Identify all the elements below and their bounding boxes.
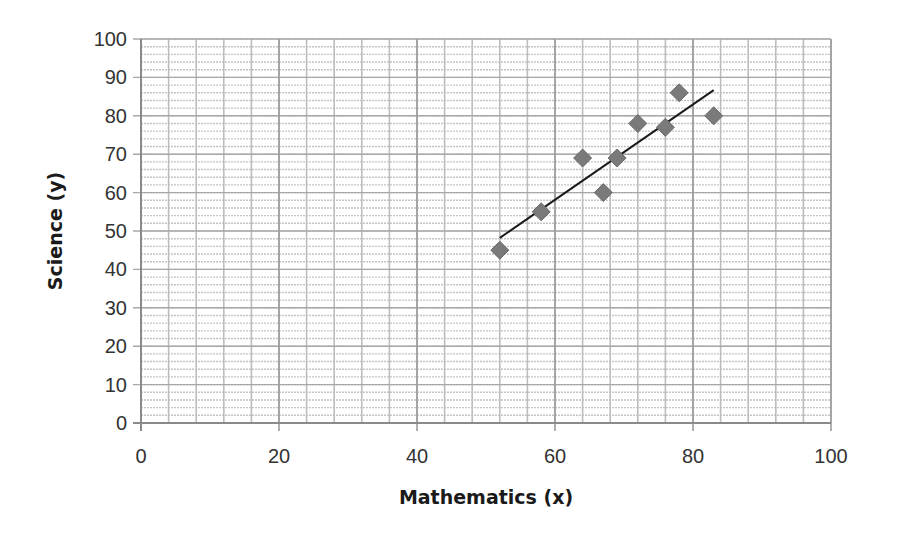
data-points xyxy=(491,84,723,259)
diamond-marker xyxy=(629,114,647,132)
y-tick-label: 80 xyxy=(105,105,127,127)
diamond-marker xyxy=(491,241,509,259)
y-tick-label: 100 xyxy=(94,28,127,50)
x-tick-label: 80 xyxy=(682,445,704,467)
y-tick-label: 90 xyxy=(105,66,127,88)
y-tick-label: 60 xyxy=(105,182,127,204)
diamond-marker xyxy=(670,84,688,102)
y-tick-label: 70 xyxy=(105,143,127,165)
x-tick-label: 60 xyxy=(544,445,566,467)
major-gridlines xyxy=(133,39,831,431)
y-tick-label: 30 xyxy=(105,297,127,319)
y-tick-label: 0 xyxy=(116,412,127,434)
tick-labels: 0102030405060708090100020406080100 xyxy=(94,28,848,467)
scatter-chart: 0102030405060708090100020406080100 Mathe… xyxy=(0,0,897,536)
y-tick-label: 50 xyxy=(105,220,127,242)
y-tick-label: 40 xyxy=(105,258,127,280)
x-tick-label: 40 xyxy=(406,445,428,467)
x-tick-label: 20 xyxy=(268,445,290,467)
y-tick-label: 10 xyxy=(105,374,127,396)
x-tick-label: 0 xyxy=(135,445,146,467)
diamond-marker xyxy=(574,149,592,167)
axes xyxy=(133,39,831,431)
y-axis-title: Science (y) xyxy=(44,172,66,290)
diamond-marker xyxy=(656,118,674,136)
x-axis-title: Mathematics (x) xyxy=(399,486,573,508)
y-tick-label: 20 xyxy=(105,335,127,357)
x-tick-label: 100 xyxy=(814,445,847,467)
